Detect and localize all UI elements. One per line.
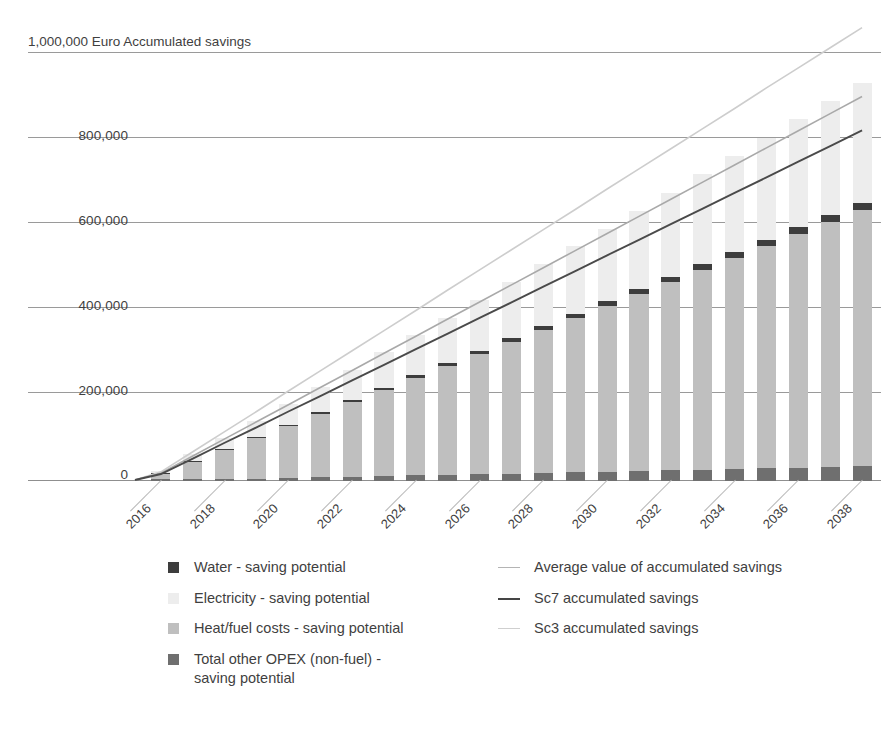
xtick-label-2018: 2018 (186, 501, 217, 532)
legend-swatch-icon (168, 623, 179, 634)
legend-label: Sc3 accumulated savings (534, 619, 698, 639)
legend-swatch-icon (168, 562, 179, 573)
xtick-label-2016: 2016 (123, 501, 154, 532)
xtick-label-2036: 2036 (760, 501, 791, 532)
line-sc3 (135, 28, 862, 480)
legend-swatch-icon (168, 593, 179, 604)
legend-item[interactable]: Total other OPEX (non-fuel) - saving pot… (168, 650, 404, 689)
accumulated-savings-chart: 1,000,000 Euro Accumulated savings 800,0… (0, 0, 889, 729)
legend-label: Water - saving potential (194, 558, 346, 578)
xtick-label-2020: 2020 (250, 501, 281, 532)
legend-item[interactable]: Water - saving potential (168, 558, 404, 578)
xtick-label-2030: 2030 (569, 501, 600, 532)
legend-swatch-icon (168, 654, 179, 665)
xtick-label-2032: 2032 (633, 501, 664, 532)
legend-label: Electricity - saving potential (194, 589, 370, 609)
legend-label: Sc7 accumulated savings (534, 589, 698, 609)
legend-line-column: Average value of accumulated savingsSc7 … (498, 558, 782, 650)
line-sc7 (135, 130, 862, 480)
legend-label: Average value of accumulated savings (534, 558, 782, 578)
legend-item[interactable]: Average value of accumulated savings (498, 558, 782, 578)
line-average (135, 97, 862, 480)
legend-line-icon (498, 598, 520, 600)
xtick-label-2034: 2034 (696, 501, 727, 532)
legend-item[interactable]: Sc3 accumulated savings (498, 619, 782, 639)
legend-bar-column: Water - saving potentialElectricity - sa… (168, 558, 404, 700)
legend-item[interactable]: Heat/fuel costs - saving potential (168, 619, 404, 639)
xtick-label-2038: 2038 (824, 501, 855, 532)
legend-label: Heat/fuel costs - saving potential (194, 619, 404, 639)
legend-label: Total other OPEX (non-fuel) - saving pot… (194, 650, 381, 689)
xtick-label-2022: 2022 (314, 501, 345, 532)
xtick-label-2028: 2028 (505, 501, 536, 532)
chart-legend: Water - saving potentialElectricity - sa… (0, 558, 889, 708)
legend-line-icon (498, 628, 520, 629)
legend-item[interactable]: Electricity - saving potential (168, 589, 404, 609)
plot-area: 1,000,000 Euro Accumulated savings 800,0… (0, 0, 889, 500)
x-axis-tick-labels: 2016201820202022202420262028203020322034… (0, 480, 889, 550)
line-series-layer (0, 0, 889, 500)
legend-line-icon (498, 567, 520, 568)
legend-item[interactable]: Sc7 accumulated savings (498, 589, 782, 609)
xtick-label-2024: 2024 (378, 501, 409, 532)
xtick-label-2026: 2026 (441, 501, 472, 532)
